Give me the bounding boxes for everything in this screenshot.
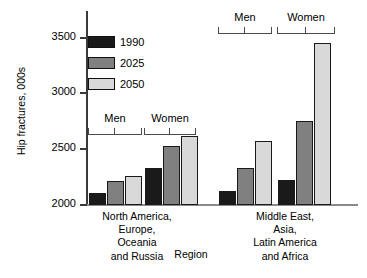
- category-label-region-2-line-4: and Africa: [219, 250, 351, 263]
- legend-swatch-2050: [88, 78, 115, 90]
- bracket-label-g2-women: Women: [277, 11, 335, 23]
- bar-2025-women-region-1: [163, 146, 180, 205]
- bracket-label-g1-women: Women: [144, 112, 196, 124]
- bar-1990-women-region-2: [278, 180, 295, 205]
- legend-label-1990: 1990: [120, 37, 144, 48]
- legend-swatch-2025: [88, 57, 115, 69]
- category-label-region-2-line-3: Latin America: [219, 236, 351, 249]
- bracket-label-g2-men: Men: [218, 11, 272, 23]
- legend: 1990 2025 2050: [88, 33, 144, 96]
- y-axis-label: Hip fractures, 000s: [15, 41, 27, 181]
- legend-item-2050: 2050: [88, 75, 144, 93]
- x-axis-label: Region: [162, 249, 220, 260]
- legend-item-1990: 1990: [88, 33, 144, 51]
- y-tick-2000: [80, 204, 87, 206]
- y-tick-3000: [80, 92, 87, 94]
- bar-1990-women-region-1: [145, 168, 162, 205]
- legend-item-2025: 2025: [88, 54, 144, 72]
- y-tick-label-3500: 3500: [26, 31, 76, 42]
- y-tick-3500: [80, 37, 87, 39]
- y-tick-label-2500: 2500: [26, 142, 76, 153]
- bar-2050-women-region-2: [314, 43, 331, 205]
- bracket-g1-men: [88, 128, 142, 136]
- bracket-g2-women: [277, 27, 335, 35]
- bar-2050-women-region-1: [181, 136, 198, 205]
- bar-2025-men-region-2: [237, 168, 254, 205]
- legend-label-2050: 2050: [120, 79, 144, 90]
- bar-2025-men-region-1: [107, 181, 124, 205]
- category-label-region-2: Middle East, Asia, Latin America and Afr…: [219, 210, 351, 263]
- category-label-region-2-line-1: Middle East,: [219, 210, 351, 223]
- bar-2025-women-region-2: [296, 121, 313, 206]
- bar-chart: Hip fractures, 000s 3500 3000 2500 2000 …: [0, 0, 367, 278]
- bar-1990-men-region-2: [219, 191, 236, 205]
- legend-swatch-1990: [88, 36, 115, 48]
- y-tick-label-2000: 2000: [26, 198, 76, 209]
- bar-1990-men-region-1: [89, 193, 106, 205]
- y-tick-label-3000: 3000: [26, 86, 76, 97]
- bracket-g2-men: [218, 27, 272, 35]
- category-label-region-1-line-2: Europe,: [72, 223, 202, 236]
- y-tick-2500: [80, 148, 87, 150]
- category-label-region-1-line-1: North America,: [72, 210, 202, 223]
- legend-label-2025: 2025: [120, 58, 144, 69]
- category-label-region-2-line-2: Asia,: [219, 223, 351, 236]
- bar-2050-men-region-1: [125, 176, 142, 205]
- bracket-g1-women: [144, 128, 196, 136]
- bar-2050-men-region-2: [255, 141, 272, 205]
- bracket-label-g1-men: Men: [88, 112, 142, 124]
